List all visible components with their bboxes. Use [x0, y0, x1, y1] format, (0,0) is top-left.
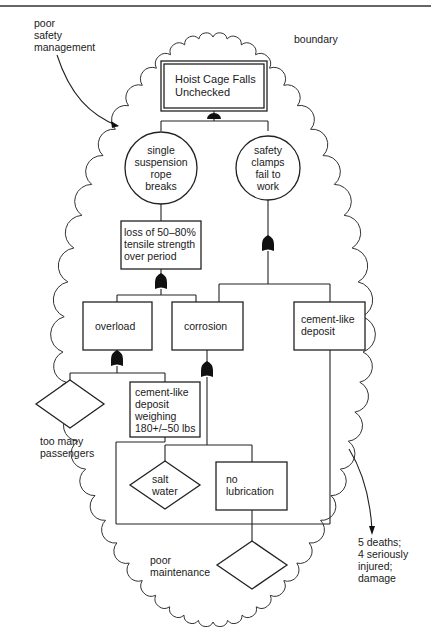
tensile-loss-label: loss of 50–80% tensile strength over per… [124, 226, 196, 262]
and-gate-top-icon [207, 113, 221, 119]
outcome-arrow [349, 449, 372, 530]
poor-maintenance-diamond [217, 541, 287, 589]
or-gate-overload-icon [111, 350, 123, 366]
cement-weighing-label: cement-like deposit weighing 180+/–50 lb… [135, 386, 195, 434]
too-many-passengers-diamond [36, 380, 104, 428]
safety-management-arrow [57, 55, 118, 126]
cement-deposit-label: cement-like deposit [301, 313, 355, 337]
safety-management-arrowhead [111, 121, 119, 128]
corrosion-label: corrosion [184, 320, 227, 332]
outcome-arrowhead [369, 526, 375, 535]
or-gate-tensile-icon [155, 273, 167, 289]
outcome-label: 5 deaths; 4 seriously injured; damage [358, 536, 408, 584]
clamps-fail-label: safety clamps fail to work [240, 144, 296, 192]
or-gate-corrosion-icon [201, 361, 213, 377]
too-many-passengers-label: too many passengers [40, 435, 94, 459]
salt-water-label: salt water [152, 473, 178, 497]
no-lubrication-label: no lubrication [226, 473, 274, 497]
overload-label: overload [95, 320, 135, 332]
top-event-label: Hoist Cage Falls Unchecked [175, 73, 256, 99]
boundary-label: boundary [294, 33, 338, 45]
or-gate-clamps-icon [262, 235, 274, 251]
poor-maintenance-label: poor maintenance [150, 554, 210, 578]
poor-safety-management-label: poor safety management [34, 17, 95, 53]
rope-breaks-label: single suspension rope breaks [126, 144, 196, 192]
